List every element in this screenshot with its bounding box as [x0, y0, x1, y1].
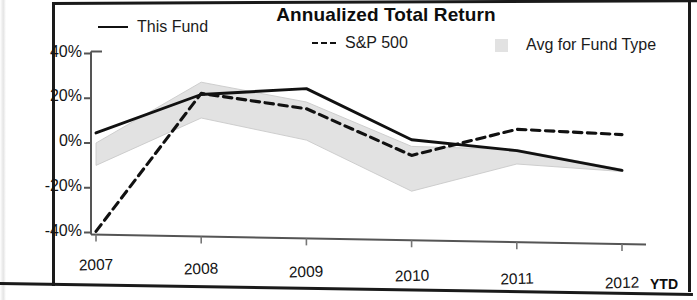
chart-figure: Annualized Total Return This Fund S&P 50…	[0, 0, 697, 300]
avg-fund-type-band-area	[96, 82, 622, 191]
x-axis-line	[91, 235, 646, 245]
x-axis-tick-label: 2012	[596, 273, 648, 292]
x-axis-tick-label: 2008	[175, 259, 227, 278]
x-axis-tick-label: 2011	[491, 270, 543, 289]
y-axis-tick-label: 40%	[26, 43, 82, 61]
y-axis-tick-label: 20%	[26, 87, 82, 105]
y-axis-tick-label: -20%	[26, 177, 82, 195]
x-axis-tick-label: 2010	[385, 266, 437, 285]
y-axis-tick-label: -40%	[26, 222, 82, 240]
x-axis-tick-label: 2009	[280, 262, 332, 281]
avg-fund-type-band	[96, 82, 622, 191]
x-axis-ytd-label: YTD	[650, 276, 678, 292]
y-axis-tick-label: 0%	[26, 132, 82, 150]
x-axis-tick-label: 2007	[70, 255, 122, 274]
